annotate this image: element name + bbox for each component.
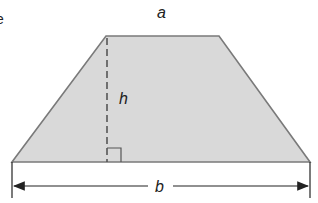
label-height-h: h (119, 91, 128, 107)
trapezoid-diagram (0, 0, 318, 203)
label-top-base-a: a (157, 5, 166, 21)
label-bottom-base-b: b (155, 179, 164, 195)
edge-text-fragment: e (0, 12, 4, 26)
trapezoid-shape (12, 36, 310, 162)
